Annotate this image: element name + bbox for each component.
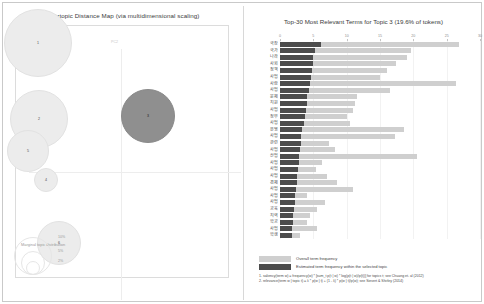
legend-row-overall: Overall term frequency — [259, 255, 483, 263]
term-label[interactable]: 학생 — [259, 232, 278, 238]
topic-bubble-label-2: 2 — [38, 117, 40, 121]
bar-rows: 국장국가나라사회정책사업사람사업문제지원사업정부사업운영사업관련사업산업사업사업… — [259, 41, 481, 241]
bar-topic-frequency — [280, 220, 293, 225]
term-label[interactable]: 사람 — [259, 81, 278, 87]
term-label[interactable]: 사업 — [259, 74, 278, 80]
bar-topic-frequency — [280, 55, 313, 60]
bar-row[interactable]: 경제 — [259, 180, 481, 186]
legend-swatch-topic — [259, 264, 291, 270]
term-label[interactable]: 사업 — [259, 186, 278, 192]
topic-bubble-label-5: 5 — [27, 149, 29, 153]
term-label[interactable]: 사업 — [259, 120, 278, 126]
bar-row[interactable]: 사업 — [259, 166, 481, 172]
topic-bubble-label-1: 1 — [37, 41, 39, 45]
term-label[interactable]: 학교 — [259, 219, 278, 225]
bar-topic-frequency — [280, 75, 311, 80]
top-terms-panel: Top-30 Most Relevant Terms for Topic 3 (… — [244, 3, 483, 303]
bar-row[interactable]: 사업 — [259, 87, 481, 93]
term-label[interactable]: 사업 — [259, 173, 278, 179]
bar-row[interactable]: 운영 — [259, 127, 481, 133]
bar-row[interactable]: 지역 — [259, 213, 481, 219]
bar-row[interactable]: 사업 — [259, 199, 481, 205]
bar-topic-frequency — [280, 213, 293, 218]
term-label[interactable]: 사업 — [259, 193, 278, 199]
bar-row[interactable]: 관련 — [259, 140, 481, 146]
bar-row[interactable]: 사업 — [259, 133, 481, 139]
bar-row[interactable]: 사업 — [259, 120, 481, 126]
term-label[interactable]: 사업 — [259, 160, 278, 166]
term-label[interactable]: 사업 — [259, 133, 278, 139]
bar-topic-frequency — [280, 68, 312, 73]
pyldavis-visualization: Intertopic Distance Map (via multidimens… — [0, 0, 484, 304]
bar-row[interactable]: 학교 — [259, 219, 481, 225]
term-label[interactable]: 지원 — [259, 100, 278, 106]
bar-row[interactable]: 사업 — [259, 160, 481, 166]
bar-chart-legend: Overall term frequency Estimated term fr… — [259, 255, 483, 271]
bar-row[interactable]: 사업 — [259, 193, 481, 199]
horizontal-axis — [29, 172, 241, 173]
bar-row[interactable]: 사회 — [259, 61, 481, 67]
bar-row[interactable]: 사업 — [259, 107, 481, 113]
term-label[interactable]: 사업 — [259, 87, 278, 93]
bar-row[interactable]: 사업 — [259, 226, 481, 232]
bar-row[interactable]: 문제 — [259, 94, 481, 100]
term-label[interactable]: 운영 — [259, 127, 278, 133]
vertical-axis — [121, 49, 122, 300]
term-label[interactable]: 사업 — [259, 226, 278, 232]
bar-row[interactable]: 학생 — [259, 232, 481, 238]
bar-topic-frequency — [280, 193, 295, 198]
bar-topic-frequency — [280, 114, 305, 119]
bar-topic-frequency — [280, 108, 306, 113]
bar-row[interactable]: 사람 — [259, 81, 481, 87]
term-label[interactable]: 국가 — [259, 48, 278, 54]
term-label[interactable]: 정부 — [259, 114, 278, 120]
term-label[interactable]: 사업 — [259, 199, 278, 205]
bar-topic-frequency — [280, 147, 300, 152]
bar-row[interactable]: 지원 — [259, 100, 481, 106]
bar-row[interactable]: 사업 — [259, 147, 481, 153]
term-label[interactable]: 사업 — [259, 107, 278, 113]
term-label[interactable]: 국장 — [259, 41, 278, 47]
term-label[interactable]: 산업 — [259, 153, 278, 159]
bar-topic-frequency — [280, 207, 294, 212]
x-tick-15: 15 — [378, 34, 382, 38]
term-label[interactable]: 관련 — [259, 140, 278, 146]
bar-topic-frequency — [280, 200, 295, 205]
bar-chart: 051015202530 국장국가나라사회정책사업사람사업문제지원사업정부사업운… — [259, 28, 481, 250]
bar-topic-frequency — [280, 94, 307, 99]
bar-topic-frequency — [280, 154, 299, 159]
marginal-tick-5%: 5% — [58, 249, 63, 253]
bar-topic-frequency — [280, 42, 321, 47]
bar-topic-frequency — [280, 121, 304, 126]
term-label[interactable]: 사업 — [259, 147, 278, 153]
term-label[interactable]: 정책 — [259, 67, 278, 73]
bar-row[interactable]: 사업 — [259, 173, 481, 179]
bar-topic-frequency — [280, 167, 298, 172]
bar-row[interactable]: 정책 — [259, 67, 481, 73]
bar-overall-frequency — [280, 154, 417, 159]
term-label[interactable]: 사회 — [259, 61, 278, 67]
bar-topic-frequency — [280, 81, 310, 86]
term-label[interactable]: 나라 — [259, 54, 278, 60]
term-label[interactable]: 교육 — [259, 206, 278, 212]
term-label[interactable]: 사업 — [259, 166, 278, 172]
bar-row[interactable]: 사업 — [259, 186, 481, 192]
bar-row[interactable]: 산업 — [259, 153, 481, 159]
x-tick-25: 25 — [445, 34, 449, 38]
bar-topic-frequency — [280, 141, 301, 146]
topic-bubble-label-4: 4 — [45, 178, 47, 182]
bar-row[interactable]: 정부 — [259, 114, 481, 120]
bar-row[interactable]: 교육 — [259, 206, 481, 212]
bar-row[interactable]: 나라 — [259, 54, 481, 60]
term-label[interactable]: 경제 — [259, 180, 278, 186]
bar-row[interactable]: 국가 — [259, 48, 481, 54]
term-label[interactable]: 문제 — [259, 94, 278, 100]
term-label[interactable]: 지역 — [259, 213, 278, 219]
bar-topic-frequency — [280, 61, 313, 66]
x-tick-0: 0 — [279, 34, 281, 38]
bar-topic-frequency — [280, 134, 301, 139]
bar-row[interactable]: 사업 — [259, 74, 481, 80]
bar-chart-title: Top-30 Most Relevant Terms for Topic 3 (… — [244, 18, 483, 25]
bar-row[interactable]: 국장 — [259, 41, 481, 47]
bar-topic-frequency — [280, 160, 299, 165]
